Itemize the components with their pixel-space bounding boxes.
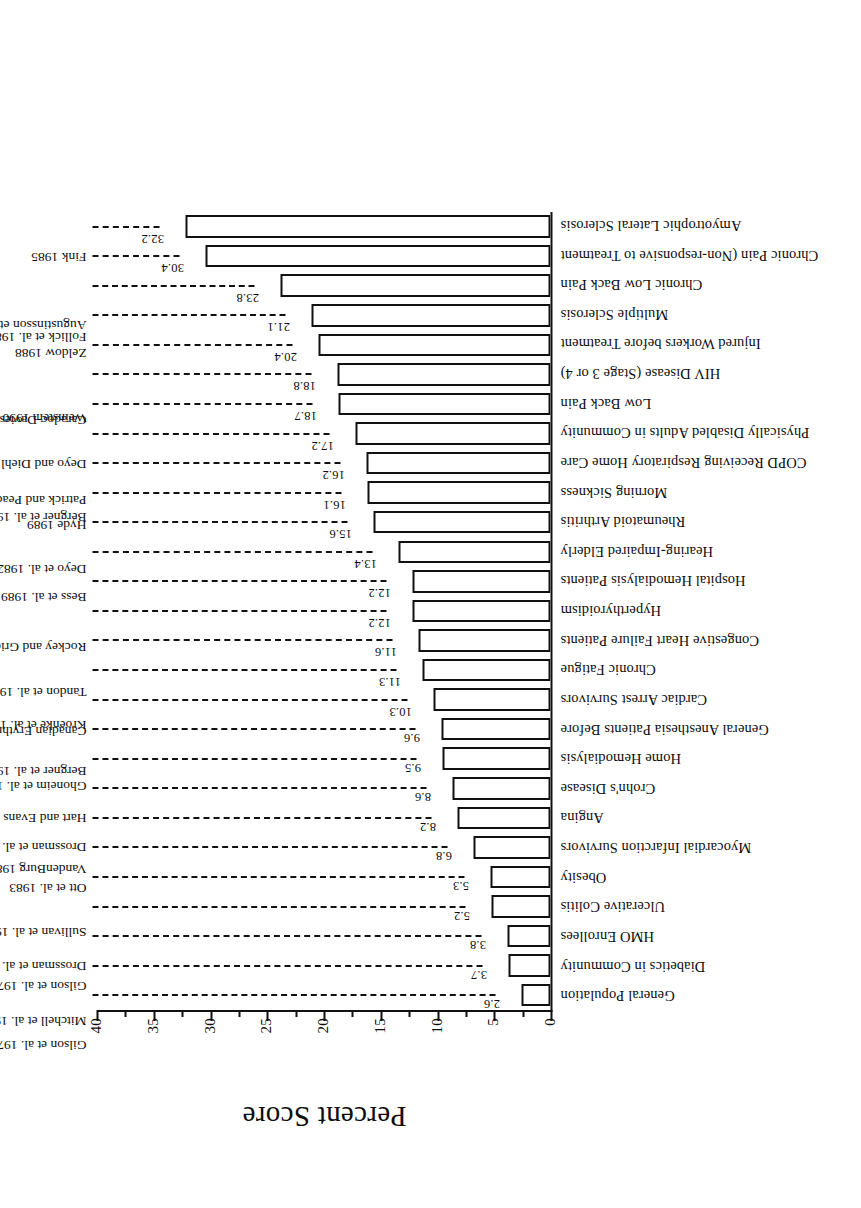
bar-value-label: 9.5 <box>404 759 420 774</box>
citation-label: Mitchell et al. 1990 <box>0 1013 86 1029</box>
leader-line <box>92 994 494 996</box>
category-label-cell: Multiple Sclerosis <box>556 299 856 329</box>
bar[interactable] <box>318 334 550 356</box>
citation-label: Bergner et al. 1984; 1985 <box>0 762 86 778</box>
tick-label-0: 0 <box>542 1018 559 1026</box>
category-label: Obesity <box>560 868 606 885</box>
bar[interactable] <box>507 925 550 947</box>
category-label-cell: Crohn's Disease <box>556 773 856 803</box>
bar[interactable] <box>418 629 550 651</box>
bar-group: 12.2Rockey and Griep 1980 <box>96 567 550 597</box>
leader-line <box>92 876 464 878</box>
bar[interactable] <box>280 275 550 297</box>
citation-label: Augustinsson et al. 1986 <box>0 317 86 333</box>
citation-label: Bergner et al. 1988 <box>0 509 86 525</box>
bar-value-label: 10.3 <box>389 703 412 718</box>
category-label-cell: Injured Workers before Treatment <box>556 329 856 359</box>
category-label: Home Hemodialysis <box>560 750 681 767</box>
bar-group: 11.3Kroenke et al. 1988 <box>96 655 550 685</box>
tick-label-20: 20 <box>315 1018 332 1033</box>
leader-line <box>92 817 431 819</box>
bar-group: 16.1Hyde 1989 <box>96 478 550 508</box>
tick-label-5: 5 <box>485 1018 502 1026</box>
bar-group: 11.6Tandon et al. 1989 <box>96 626 550 656</box>
bar[interactable] <box>490 866 550 888</box>
bar[interactable] <box>491 895 550 917</box>
bar[interactable] <box>373 511 550 533</box>
bar[interactable] <box>185 215 550 237</box>
leader-line <box>92 846 447 848</box>
bar-group: 20.4Caradoc-Davies et al. 1990 <box>96 330 550 360</box>
category-label-cell: HIV Disease (Stage 3 or 4) <box>556 358 856 388</box>
category-label-cell: Amyotrophic Lateral Sclerosis <box>556 210 856 240</box>
bar[interactable] <box>457 807 550 829</box>
citation-label: Zeldow 1988 <box>14 345 86 361</box>
bar[interactable] <box>441 718 550 740</box>
bar[interactable] <box>311 304 550 326</box>
category-label-cell: Low Back Pain <box>556 388 856 418</box>
bar[interactable] <box>367 481 550 503</box>
leader-line <box>92 551 372 553</box>
bar-value-label: 13.4 <box>354 556 377 571</box>
axis-title-percent-score: Percent Score <box>242 1100 406 1133</box>
category-label: Rheumatoid Arthritis <box>560 513 685 530</box>
bar[interactable] <box>355 422 550 444</box>
bar-series: 2.6Gilson et al. 19793.7Mitchell et al. … <box>96 212 550 1010</box>
plot-area: 0510152025303540 Percent Score 2.6Gilson… <box>96 212 552 1012</box>
bar[interactable] <box>508 954 550 976</box>
bar-group: 10.3Bergner et al. 1984; 1985 <box>96 685 550 715</box>
category-label-cell: Physically Disabled Adults in Community <box>556 418 856 448</box>
bar-group: 5.2Drossman et al. 1989 <box>96 892 550 922</box>
bar[interactable] <box>398 541 550 563</box>
bar-value-label: 11.6 <box>375 644 397 659</box>
tick-minor-32.5 <box>181 1012 183 1017</box>
category-label-cell: General Anesthesia Patients Before <box>556 714 856 744</box>
category-label: Chronic Low Back Pain <box>560 276 702 293</box>
bar[interactable] <box>412 570 550 592</box>
citation-label: Caradoc-Davies et al. 1990 <box>0 412 86 428</box>
bar[interactable] <box>473 836 550 858</box>
bar[interactable] <box>366 452 550 474</box>
bar[interactable] <box>452 777 550 799</box>
bar-group: 21.1Zeldow 1988 <box>96 301 550 331</box>
citation-label: Deyo and Diehl 1983 <box>0 456 86 472</box>
leader-line <box>92 344 292 346</box>
bar-group: 8.2VandenBurg 1988 <box>96 803 550 833</box>
bar-value-label: 6.8 <box>435 848 451 863</box>
category-label-cell: Ulcerative Colitis <box>556 892 856 922</box>
bar[interactable] <box>521 984 551 1006</box>
category-label: Diabetics in Community <box>560 957 705 974</box>
bar-value-label: 12.2 <box>367 585 390 600</box>
bar-group: 18.8Weinstein 1990 <box>96 360 550 390</box>
category-label-cell: COPD Receiving Respiratory Home Care <box>556 447 856 477</box>
bar-value-label: 11.3 <box>378 674 400 689</box>
citation-label: Tandon et al. 1989 <box>0 685 86 701</box>
bar-value-label: 21.1 <box>266 319 289 334</box>
bar-group: 8.6Drossman et al. 1989 <box>96 774 550 804</box>
category-labels: General PopulationDiabetics in Community… <box>556 210 856 1010</box>
category-label: COPD Receiving Respiratory Home Care <box>560 453 806 470</box>
bar[interactable] <box>433 688 550 710</box>
bar[interactable] <box>205 245 550 267</box>
bar[interactable] <box>412 600 550 622</box>
leader-line <box>92 314 285 316</box>
bar-value-label: 32.2 <box>140 230 163 245</box>
bar[interactable] <box>442 748 550 770</box>
leader-line <box>92 906 465 908</box>
category-label-cell: Chronic Low Back Pain <box>556 269 856 299</box>
leader-line <box>92 492 341 494</box>
category-label: Cardiac Arrest Survivors <box>560 690 707 707</box>
bar-value-label: 15.6 <box>329 526 352 541</box>
bar[interactable] <box>422 659 550 681</box>
category-label: Hearing-Impaired Elderly <box>560 542 713 559</box>
leader-line <box>92 226 159 228</box>
bar[interactable] <box>337 363 550 385</box>
bar[interactable] <box>338 393 550 415</box>
leader-line <box>92 462 340 464</box>
bar-value-label: 17.2 <box>311 437 334 452</box>
tick-label-15: 15 <box>371 1018 388 1033</box>
bar-group: 9.5Hart and Evans 1987 <box>96 744 550 774</box>
citation-label: Ott et al. 1983 <box>9 880 86 896</box>
category-label: Chronic Fatigue <box>560 661 655 678</box>
leader-line <box>92 255 179 257</box>
